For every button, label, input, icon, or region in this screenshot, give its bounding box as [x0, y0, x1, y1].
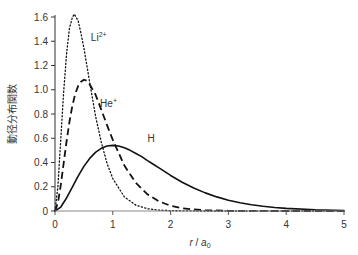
y-tick-label: 0.2 — [34, 181, 48, 192]
x-tick-label: 3 — [226, 219, 232, 230]
x-tick-label: 4 — [283, 219, 289, 230]
x-axis: 012345 — [52, 211, 347, 230]
y-tick-label: 1.2 — [34, 60, 48, 71]
y-axis-label: 動径分布関数 — [6, 84, 18, 144]
x-tick-label: 2 — [168, 219, 174, 230]
x-tick-label: 1 — [110, 219, 116, 230]
curve-label-h: H — [147, 133, 154, 144]
y-tick-label: 1.0 — [34, 84, 48, 95]
curve-labels: HHe+Li2+ — [91, 31, 155, 144]
curve-li2 — [55, 14, 344, 211]
curve-label-li2: Li2+ — [91, 31, 107, 43]
curve-h — [55, 145, 344, 211]
x-axis-label-sep: / — [193, 237, 201, 248]
y-tick-label: 1.4 — [34, 36, 48, 47]
curve-he — [55, 80, 344, 211]
y-tick-label: 0.8 — [34, 109, 48, 120]
y-tick-label: 0.4 — [34, 157, 48, 168]
x-axis-label: r / a0 — [189, 237, 210, 249]
y-axis: 00.20.40.60.81.01.21.41.6 — [34, 12, 55, 217]
y-tick-label: 0.6 — [34, 133, 48, 144]
x-axis-label-sub: 0 — [207, 242, 211, 249]
radial-distribution-chart: 00.20.40.60.81.01.21.41.6 012345 HHe+Li2… — [0, 0, 358, 255]
plot-curves — [55, 14, 344, 211]
curve-label-he: He+ — [100, 97, 117, 109]
x-tick-label: 0 — [52, 219, 58, 230]
y-tick-label: 1.6 — [34, 12, 48, 23]
y-tick-label: 0 — [42, 206, 48, 217]
x-tick-label: 5 — [341, 219, 347, 230]
